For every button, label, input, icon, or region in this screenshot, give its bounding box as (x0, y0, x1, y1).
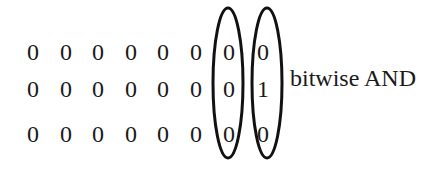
bit-r3-c2: 0 (56, 122, 76, 146)
bit-r3-c8: 0 (253, 122, 273, 146)
bit-r3-c7: 0 (219, 122, 239, 146)
bit-r3-c4: 0 (121, 122, 141, 146)
bit-r1-c5: 0 (153, 40, 173, 64)
bit-r1-c1: 0 (23, 40, 43, 64)
bit-r1-c8: 0 (253, 40, 273, 64)
bit-r2-c5: 0 (153, 77, 173, 101)
bit-r1-c4: 0 (121, 40, 141, 64)
bit-r1-c3: 0 (88, 40, 108, 64)
bit-r2-c8: 1 (253, 77, 273, 101)
bit-r1-c2: 0 (56, 40, 76, 64)
bit-r2-c4: 0 (121, 77, 141, 101)
bit-r3-c3: 0 (88, 122, 108, 146)
bit-r2-c7: 0 (219, 77, 239, 101)
bit-r2-c3: 0 (88, 77, 108, 101)
bit-r2-c6: 0 (186, 77, 206, 101)
bit-r1-c6: 0 (186, 40, 206, 64)
operation-label: bitwise AND (290, 66, 416, 90)
bit-r3-c1: 0 (23, 122, 43, 146)
bit-r2-c1: 0 (23, 77, 43, 101)
bit-r3-c6: 0 (186, 122, 206, 146)
bit-r3-c5: 0 (153, 122, 173, 146)
bit-r2-c2: 0 (56, 77, 76, 101)
bit-r1-c7: 0 (219, 40, 239, 64)
